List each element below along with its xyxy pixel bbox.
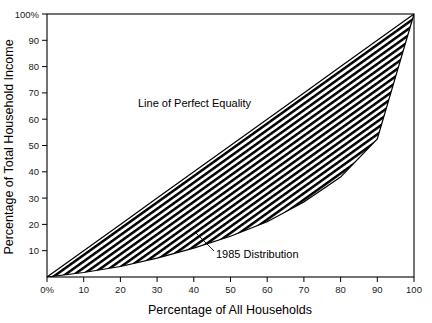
annotation-line-of-perfect-equality: Line of Perfect Equality (138, 97, 252, 109)
x-tick-label: 0% (40, 284, 54, 295)
x-tick-label: 30 (152, 284, 163, 295)
x-tick-label: 40 (189, 284, 200, 295)
x-tick-label: 100 (406, 284, 422, 295)
lorenz-curve-chart: 0%102030405060708090100 1020304050607080… (0, 0, 432, 323)
y-tick-label: 10 (28, 245, 39, 256)
y-tick-label: 80 (28, 61, 39, 72)
x-tick-label: 80 (335, 284, 346, 295)
x-tick-label: 10 (78, 284, 89, 295)
y-tick-label: 70 (28, 87, 39, 98)
chart-svg: 0%102030405060708090100 1020304050607080… (0, 0, 432, 323)
x-tick-label: 90 (372, 284, 383, 295)
y-tick-label: 20 (28, 219, 39, 230)
annotation-1985-distribution: 1985 Distribution (216, 248, 299, 260)
y-tick-label: 90 (28, 35, 39, 46)
x-tick-label: 70 (299, 284, 310, 295)
x-tick-label: 50 (225, 284, 236, 295)
y-tick-label: 40 (28, 166, 39, 177)
x-tick-label: 20 (115, 284, 126, 295)
y-tick-label: 30 (28, 193, 39, 204)
y-axis-title: Percentage of Total Household Income (2, 39, 16, 254)
y-tick-label: 100% (15, 9, 40, 20)
y-tick-label: 50 (28, 140, 39, 151)
x-axis-title: Percentage of All Households (148, 303, 312, 317)
y-tick-label: 60 (28, 114, 39, 125)
x-tick-label: 60 (262, 284, 273, 295)
